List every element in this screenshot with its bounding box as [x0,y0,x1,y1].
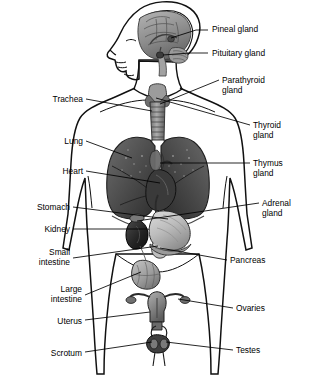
diagram-canvas: Pineal gland Pituitary gland Parathyroid… [0,0,315,378]
label-stomach: Stomach [37,202,70,212]
label-thymus-gland-line2: gland [253,168,274,178]
label-trachea: Trachea [53,94,84,104]
testis-left-organ [150,339,158,349]
label-large-intestine: Large [61,284,83,294]
ovary-left-organ [126,297,136,304]
label-parathyroid-gland: Parathyroid [222,75,265,85]
label-small-intestine-line2: intestine [39,257,71,267]
label-heart: Heart [63,166,84,176]
label-small-intestine: Small [49,247,70,257]
testis-right-organ [160,339,168,349]
label-ovaries: Ovaries [236,303,265,313]
label-adrenal-gland: Adrenal [262,198,291,208]
label-thymus-gland: Thymus [253,158,283,168]
pituitary-gland-organ [156,52,163,58]
label-thyroid-gland: Thyroid [253,120,281,130]
label-adrenal-gland-line2: gland [262,208,283,218]
label-uterus: Uterus [57,316,82,326]
label-parathyroid-gland-line2: gland [222,85,243,95]
label-lung: Lung [64,136,83,146]
anatomy-diagram: Pineal gland Pituitary gland Parathyroid… [0,0,315,378]
label-pancreas: Pancreas [230,255,265,265]
label-pituitary-gland: Pituitary gland [212,48,265,58]
label-testes: Testes [236,345,260,355]
label-thyroid-gland-line2: gland [253,130,274,140]
label-large-intestine-line2: intestine [51,294,83,304]
label-scrotum: Scrotum [51,348,82,358]
label-pineal-gland: Pineal gland [212,24,258,34]
label-kidney: Kidney [44,224,70,234]
